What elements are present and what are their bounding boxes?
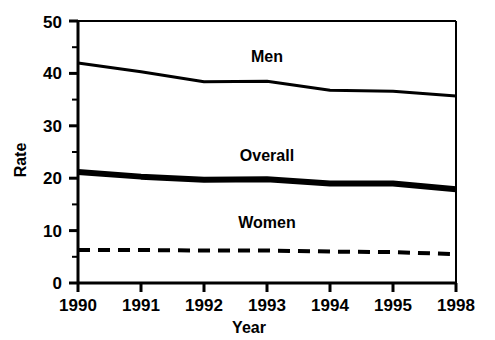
x-axis-title: Year [232,319,266,336]
x-tick-label-1991: 1991 [122,296,160,315]
y-tick-label-40: 40 [43,64,62,83]
x-tick-label-1992: 1992 [185,296,223,315]
series-line-women [78,250,456,254]
y-tick-label-50: 50 [43,13,62,32]
series-line-men [78,63,456,96]
y-axis-title: Rate [12,143,29,178]
series-label-overall: Overall [240,147,294,164]
y-tick-labels: 0 10 20 30 40 50 [43,13,62,294]
chart-figure: 0 10 20 30 40 50 1990 1991 1992 1993 199… [0,0,495,340]
x-tick-labels: 1990 1991 1992 1993 1994 1995 1998 [59,296,475,315]
series-label-women: Women [238,214,295,231]
line-chart: 0 10 20 30 40 50 1990 1991 1992 1993 199… [0,0,495,340]
y-tick-label-0: 0 [53,274,62,293]
x-tick-label-1995: 1995 [374,296,412,315]
y-tick-label-30: 30 [43,117,62,136]
series-line-overall [78,172,456,189]
series-label-men: Men [251,48,283,65]
x-tick-label-1998: 1998 [437,296,475,315]
y-tick-label-20: 20 [43,169,62,188]
x-tick-label-1990: 1990 [59,296,97,315]
series-annotations: Men Overall Women [238,48,295,231]
y-tick-label-10: 10 [43,222,62,241]
x-tick-label-1994: 1994 [311,296,349,315]
x-tick-label-1993: 1993 [248,296,286,315]
